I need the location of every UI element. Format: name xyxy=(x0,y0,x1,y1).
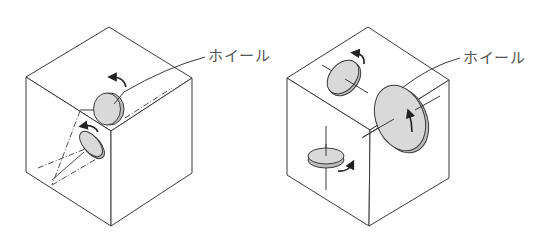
diagram-svg xyxy=(0,0,553,243)
wheel-label-right: ホイール xyxy=(463,51,525,66)
wheel-label-left: ホイール xyxy=(208,49,270,64)
left-cube xyxy=(26,27,192,226)
diagram-canvas: ホイール ホイール xyxy=(0,0,553,243)
